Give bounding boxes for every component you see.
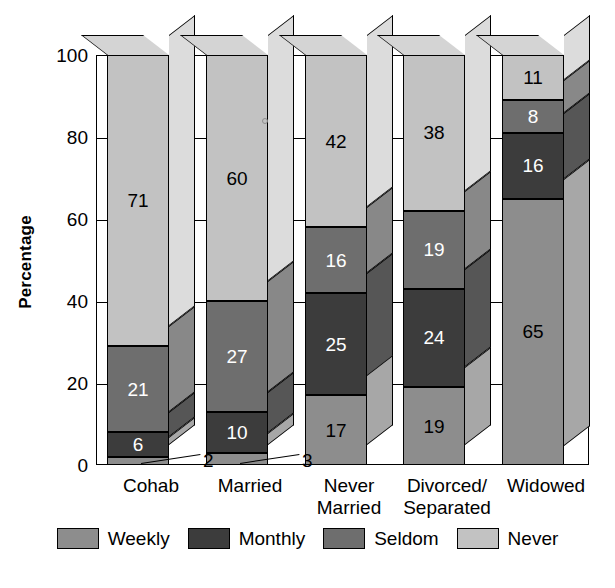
bar-segment-face: 25 [306, 294, 366, 395]
legend-swatch-never [457, 528, 499, 549]
x-tick-line: Widowed [480, 475, 612, 497]
bar-group-divorced-separated[interactable]: 38192419 [403, 35, 491, 465]
bar-group-never-married[interactable]: 42162517 [305, 35, 393, 465]
bar-value-label: 21 [127, 380, 148, 399]
bar-value-label: 24 [423, 328, 444, 347]
legend-label: Monthly [239, 529, 306, 548]
x-tick-widowed: Widowed [480, 475, 612, 497]
bar-value-callout: 3 [302, 451, 313, 470]
legend-item-seldom[interactable]: Seldom [323, 528, 438, 549]
bar-segment-monthly[interactable]: 10 [206, 412, 268, 453]
legend-label: Never [508, 529, 559, 548]
bar-segment-face: 19 [404, 212, 464, 288]
y-tick-100: 100 [44, 46, 88, 65]
bar-segment-monthly[interactable]: 6 [107, 432, 169, 457]
bar-segment-never[interactable]: 11 [502, 55, 564, 100]
bar-segment-face [207, 454, 267, 464]
bar-segment-face: 60 [207, 56, 267, 300]
legend-swatch-monthly [188, 528, 230, 549]
bar-segment-face: 16 [503, 134, 563, 198]
bar-value-callout: 2 [203, 451, 214, 470]
bar-segment-face: 65 [503, 200, 563, 465]
bar-segment-seldom[interactable]: 21 [107, 346, 169, 432]
chart-legend: WeeklyMonthlySeldomNever [0, 528, 615, 549]
bar-value-label: 71 [127, 191, 148, 210]
bar-segment-face: 8 [503, 101, 563, 132]
legend-swatch-weekly [57, 528, 99, 549]
bar-segment-never[interactable]: 60 [206, 55, 268, 301]
bar-segment-seldom[interactable]: 8 [502, 100, 564, 133]
bar-segment-face: 38 [404, 56, 464, 210]
bar-side-face [564, 159, 590, 446]
bar-value-label: 16 [522, 156, 543, 175]
bar-segment-face: 10 [207, 413, 267, 452]
bar-segment-monthly[interactable]: 25 [305, 293, 367, 396]
bar-group-married[interactable]: 602710 [206, 35, 294, 465]
bar-segment-weekly[interactable]: 65 [502, 199, 564, 466]
y-tick-60: 60 [44, 210, 88, 229]
bar-value-label: 6 [133, 435, 144, 454]
bar-segment-monthly[interactable]: 24 [403, 289, 465, 387]
bar-value-label: 17 [325, 421, 346, 440]
image-artifact-speck [262, 118, 268, 124]
bar-series-layer: 7121660271042162517381924191181665 [96, 55, 589, 465]
bar-value-label: 42 [325, 132, 346, 151]
bar-segment-seldom[interactable]: 16 [305, 227, 367, 293]
bar-segment-face: 42 [306, 56, 366, 226]
bar-value-label: 65 [522, 322, 543, 341]
bar-segment-face: 71 [108, 56, 168, 345]
bar-segment-weekly[interactable]: 17 [305, 395, 367, 465]
y-axis-title: Percentage [16, 192, 36, 332]
bar-segment-face: 19 [404, 388, 464, 464]
bar-segment-weekly[interactable] [206, 453, 268, 465]
bar-value-label: 10 [226, 423, 247, 442]
bar-segment-never[interactable]: 38 [403, 55, 465, 211]
bar-segment-never[interactable]: 42 [305, 55, 367, 227]
y-tick-0: 0 [44, 456, 88, 475]
bar-segment-face: 17 [306, 396, 366, 464]
bar-value-label: 11 [523, 68, 543, 87]
bar-group-widowed[interactable]: 1181665 [502, 35, 590, 465]
legend-label: Weekly [108, 529, 170, 548]
bar-value-label: 8 [528, 107, 539, 126]
bar-segment-never[interactable]: 71 [107, 55, 169, 346]
bar-value-label: 60 [226, 169, 247, 188]
bar-value-label: 25 [325, 335, 346, 354]
y-tick-40: 40 [44, 292, 88, 311]
bar-segment-monthly[interactable]: 16 [502, 133, 564, 199]
bar-value-label: 16 [325, 251, 346, 270]
legend-item-monthly[interactable]: Monthly [188, 528, 306, 549]
legend-swatch-seldom [323, 528, 365, 549]
bar-value-label: 19 [423, 417, 444, 436]
bar-side-face [268, 261, 294, 392]
bar-segment-face: 16 [306, 228, 366, 292]
bar-top-face [81, 35, 169, 55]
x-tick-line: Separated [381, 497, 513, 519]
bar-segment-face: 11 [503, 56, 563, 99]
bar-segment-weekly[interactable]: 19 [403, 387, 465, 465]
bar-segment-seldom[interactable]: 27 [206, 301, 268, 412]
y-tick-80: 80 [44, 128, 88, 147]
bar-value-label: 27 [226, 347, 247, 366]
legend-item-never[interactable]: Never [457, 528, 559, 549]
bar-side-face [169, 15, 195, 326]
bar-value-label: 38 [423, 123, 444, 142]
bar-side-face [268, 15, 294, 281]
bar-segment-face: 6 [108, 433, 168, 456]
bar-segment-face: 21 [108, 347, 168, 431]
bar-value-label: 19 [423, 240, 444, 259]
bar-group-cohab[interactable]: 71216 [107, 35, 195, 465]
legend-item-weekly[interactable]: Weekly [57, 528, 170, 549]
y-tick-20: 20 [44, 374, 88, 393]
bar-segment-face: 27 [207, 302, 267, 411]
bar-segment-face: 24 [404, 290, 464, 386]
chart-container: Percentage 100806040200 7121660271042162… [0, 0, 615, 588]
legend-label: Seldom [374, 529, 438, 548]
bar-segment-seldom[interactable]: 19 [403, 211, 465, 289]
